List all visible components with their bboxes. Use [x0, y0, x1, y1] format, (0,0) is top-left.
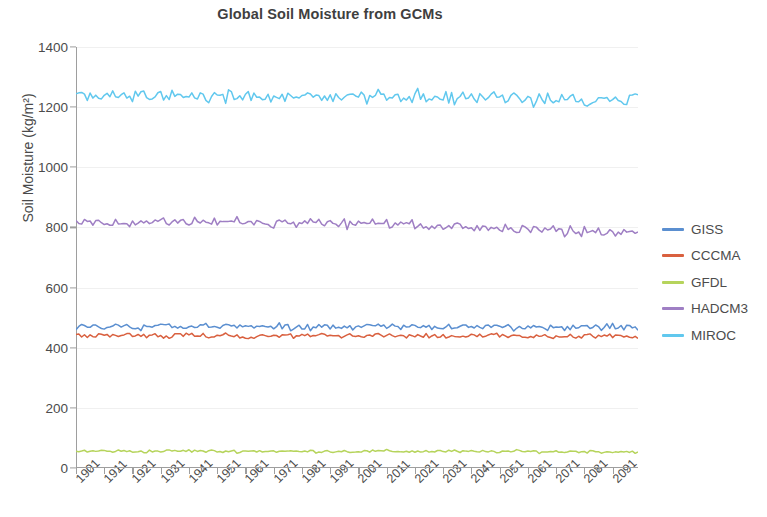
y-axis-tick-label: 1200: [8, 100, 68, 115]
legend-item-label: GFDL: [691, 275, 727, 290]
y-axis-tick-label: 0: [8, 461, 68, 476]
series-line-gfdl: [76, 449, 638, 453]
legend-item-label: GISS: [691, 222, 723, 237]
chart-legend: GISSCCCMAGFDLHADCM3MIROC: [662, 216, 767, 349]
legend-item-label: HADCM3: [691, 301, 748, 316]
legend-swatch-icon: [662, 254, 684, 257]
legend-swatch-icon: [662, 281, 684, 284]
legend-item-label: CCCMA: [691, 248, 741, 263]
y-axis-tick-label: 600: [8, 280, 68, 295]
chart-title: Global Soil Moisture from GCMs: [0, 6, 660, 22]
series-line-hadcm3: [76, 217, 638, 237]
legend-item-gfdl[interactable]: GFDL: [662, 269, 767, 296]
legend-item-cccma[interactable]: CCCMA: [662, 243, 767, 270]
legend-item-label: MIROC: [691, 328, 736, 343]
legend-item-miroc[interactable]: MIROC: [662, 322, 767, 349]
y-axis-tick-label: 200: [8, 400, 68, 415]
legend-swatch-icon: [662, 307, 684, 310]
legend-swatch-icon: [662, 228, 684, 231]
series-line-miroc: [76, 88, 638, 107]
data-series-layer: [76, 47, 638, 468]
chart-container: Global Soil Moisture from GCMs Soil Mois…: [0, 0, 767, 517]
y-axis-title: Soil Moisture (kg/m²): [20, 38, 36, 278]
legend-item-hadcm3[interactable]: HADCM3: [662, 296, 767, 323]
y-axis-tick-label: 800: [8, 220, 68, 235]
legend-swatch-icon: [662, 334, 684, 337]
legend-item-giss[interactable]: GISS: [662, 216, 767, 243]
series-line-cccma: [76, 333, 638, 339]
y-axis-tick-label: 1400: [8, 40, 68, 55]
y-axis-tick-label: 1000: [8, 160, 68, 175]
y-axis-tick-label: 400: [8, 340, 68, 355]
series-line-giss: [76, 323, 638, 331]
